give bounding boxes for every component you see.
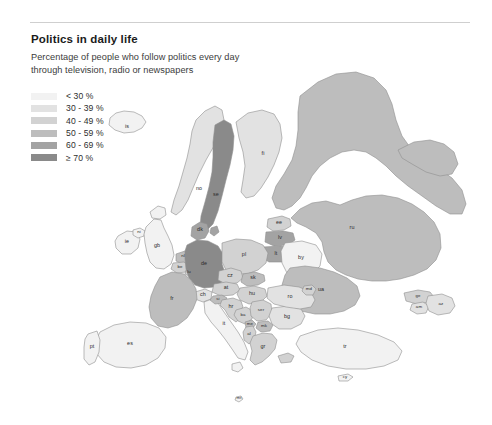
map-label-cz: cz — [227, 272, 233, 278]
map-label-mk: mk — [261, 323, 268, 328]
map-label-se: se — [213, 191, 219, 197]
map-label-is: is — [125, 123, 129, 129]
map-label-ser: ser — [258, 307, 265, 312]
map-label-lv: lv — [278, 234, 282, 240]
map-region-gb[interactable] — [144, 206, 174, 269]
map-label-no: no — [196, 185, 202, 191]
map-label-ba: ba — [240, 312, 246, 317]
map-label-cy: cy — [343, 374, 348, 379]
map-label-sk: sk — [250, 274, 256, 280]
land-layer — [84, 72, 466, 402]
map-label-es: es — [127, 340, 133, 346]
map-label-ru: ru — [350, 224, 355, 230]
map-label-dk: dk — [197, 226, 203, 232]
map-label-de: de — [201, 260, 207, 266]
map-label-gb: gb — [154, 242, 160, 248]
map-figure: Politics in daily life Percentage of peo… — [0, 0, 492, 425]
map-label-ro: ro — [288, 293, 293, 299]
map-label-md: md — [306, 286, 313, 291]
map-label-lu: lu — [187, 269, 191, 274]
map-label-at: at — [224, 284, 229, 290]
map-label-ni: ni — [137, 229, 141, 234]
map-label-ee: ee — [276, 219, 282, 225]
choropleth-map: isnosefidkeelvltbyruuaienigbnlbeludeplcz… — [0, 0, 492, 425]
map-label-by: by — [298, 254, 304, 260]
map-label-pt: pt — [90, 343, 95, 349]
map-label-lt: lt — [275, 250, 278, 256]
map-label-hu: hu — [249, 290, 255, 296]
map-label-az: az — [439, 301, 444, 306]
map-label-ch: ch — [200, 291, 206, 297]
map-label-be: be — [177, 264, 183, 269]
map-label-si: si — [216, 296, 219, 301]
map-label-hr: hr — [229, 303, 234, 309]
map-label-nl: nl — [181, 253, 185, 258]
map-label-bg: bg — [284, 313, 290, 319]
map-label-fi: fi — [262, 150, 265, 156]
map-label-gr: gr — [261, 343, 266, 349]
map-label-it: it — [223, 320, 226, 326]
map-label-ge: ge — [415, 293, 421, 298]
map-label-ie: ie — [125, 238, 129, 244]
map-canvas: isnosefidkeelvltbyruuaienigbnlbeludeplcz… — [0, 0, 492, 425]
map-label-fr: fr — [170, 295, 174, 301]
map-label-am: am — [416, 304, 423, 309]
map-label-me: me — [247, 321, 254, 326]
map-label-ua: ua — [318, 286, 324, 292]
map-region-dk[interactable] — [191, 222, 219, 240]
map-label-al: al — [247, 331, 251, 336]
map-label-pl: pl — [242, 251, 246, 257]
map-region-tr[interactable] — [296, 328, 402, 369]
map-region-gr[interactable] — [250, 333, 294, 365]
map-label-mt: mt — [236, 395, 242, 400]
map-region-is[interactable] — [109, 111, 146, 133]
map-label-tr: tr — [343, 343, 347, 349]
map-region-fi[interactable] — [236, 110, 282, 198]
